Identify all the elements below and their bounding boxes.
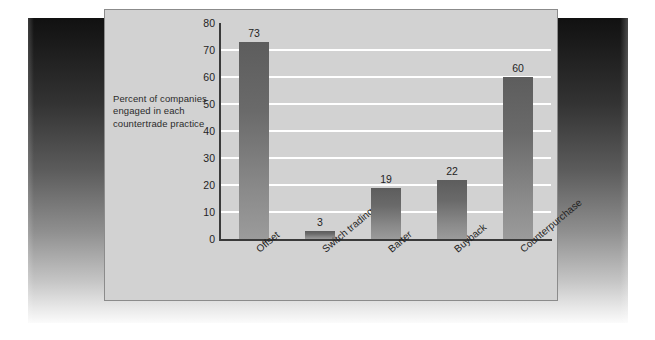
bar[interactable]	[239, 42, 269, 239]
chart-axis-description: Percent of companies engaged in each cou…	[113, 93, 211, 130]
bar-value-label: 22	[446, 165, 458, 177]
bar[interactable]	[503, 77, 533, 239]
y-axis-tick-label: 30	[203, 152, 215, 164]
bar-value-label: 60	[512, 62, 524, 74]
y-axis-tick-label: 10	[203, 206, 215, 218]
bar-group: 3Switch trading	[287, 23, 353, 239]
bar-group: 73Offset	[221, 23, 287, 239]
y-axis-tick-label: 40	[203, 125, 215, 137]
bar-value-label: 73	[248, 27, 260, 39]
bar-group: 22Buyback	[419, 23, 485, 239]
chart-panel: Percent of companies engaged in each cou…	[104, 9, 558, 301]
y-axis-tick-label: 80	[203, 17, 215, 29]
bar-value-label: 19	[380, 173, 392, 185]
bar[interactable]	[437, 180, 467, 239]
y-axis-tick-label: 70	[203, 44, 215, 56]
y-axis-tick-label: 50	[203, 98, 215, 110]
bar-value-label: 3	[317, 216, 323, 228]
plot-area: 01020304050607080 73Offset3Switch tradin…	[221, 23, 551, 239]
y-axis-tick-label: 20	[203, 179, 215, 191]
y-axis-tick-label: 0	[209, 233, 215, 245]
bar[interactable]	[371, 188, 401, 239]
bar-group: 19Barter	[353, 23, 419, 239]
bar-group: 60Counterpurchase	[485, 23, 551, 239]
chart-screenshot: Percent of companies engaged in each cou…	[0, 0, 655, 340]
y-axis-tick-label: 60	[203, 71, 215, 83]
